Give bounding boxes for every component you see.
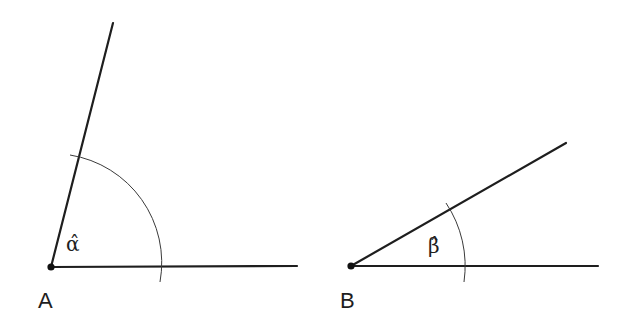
angles-diagram: A α̂ B β̂	[0, 0, 633, 323]
angle-beta-group: B β̂	[340, 143, 598, 313]
ray-a-horizontal	[51, 266, 297, 267]
vertex-b-point	[347, 262, 354, 269]
angle-alpha-group: A α̂	[38, 23, 297, 313]
ray-a-inclined	[51, 23, 113, 267]
angle-beta-label: β̂	[428, 234, 440, 258]
ray-b-inclined	[351, 143, 566, 266]
angle-alpha-label: α̂	[66, 232, 80, 256]
vertex-a-point	[47, 263, 54, 270]
vertex-b-label: B	[340, 288, 355, 313]
arc-beta	[446, 203, 465, 282]
vertex-a-label: A	[38, 288, 53, 313]
arc-alpha	[70, 155, 162, 282]
